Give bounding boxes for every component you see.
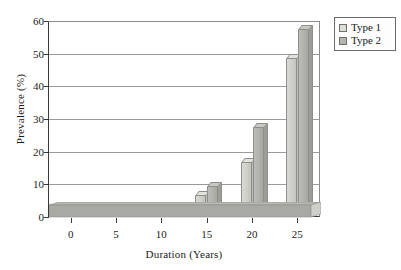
x-axis-tick-label: 15 (190, 228, 224, 240)
gridline (48, 21, 320, 22)
gridline (48, 119, 320, 120)
bar-type-2-10 (162, 211, 173, 217)
bar-front-face (286, 58, 297, 217)
y-axis-tick-label: 30 (4, 114, 44, 124)
x-axis-tick-mark (297, 218, 298, 223)
x-axis-tick-mark (207, 218, 208, 223)
y-axis-tick-label: 40 (4, 81, 44, 91)
y-axis-tick-mark (44, 217, 49, 218)
bar-type-2-5 (117, 216, 128, 217)
y-axis-tick-label: 10 (4, 179, 44, 189)
legend-label-type-1: Type 1 (351, 22, 381, 33)
legend-item-type-2[interactable]: Type 2 (339, 34, 391, 47)
bar-type-1-15 (195, 195, 206, 217)
legend-swatch-type-2-icon (339, 37, 347, 45)
legend-swatch-type-1-icon (339, 24, 347, 32)
x-axis-tick-label: 10 (144, 228, 178, 240)
x-axis-tick-mark (71, 218, 72, 223)
bar-chart: Prevalence (%) Duration (Years) 01020304… (0, 0, 401, 270)
bar-type-1-20 (241, 162, 252, 217)
gridline (48, 184, 320, 185)
bar-front-face (298, 29, 309, 217)
bar-top-face (71, 212, 86, 217)
x-axis-title: Duration (Years) (48, 248, 320, 260)
y-axis-tick-label: 0 (4, 212, 44, 222)
gridline (48, 152, 320, 153)
bar-type-2-0 (71, 216, 82, 217)
bar-type-1-10 (150, 213, 161, 217)
x-axis-tick-label: 20 (235, 228, 269, 240)
bar-front-face (241, 162, 252, 217)
y-axis-tick-label: 50 (4, 49, 44, 59)
y-axis-tick-label: 60 (4, 16, 44, 26)
x-axis-tick-label: 5 (99, 228, 133, 240)
gridline (48, 54, 320, 55)
bar-type-1-0 (59, 216, 70, 217)
bar-top-face (117, 212, 132, 217)
x-axis-tick-mark (252, 218, 253, 223)
bar-type-2-20 (253, 127, 264, 217)
x-axis-tick-mark (161, 218, 162, 223)
bar-front-face (253, 127, 264, 217)
bar-type-1-5 (105, 216, 116, 217)
bar-type-1-25 (286, 58, 297, 217)
legend-label-type-2: Type 2 (351, 35, 381, 46)
bar-type-2-25 (298, 29, 309, 217)
y-axis-tick-label: 20 (4, 147, 44, 157)
plot-area (48, 21, 320, 217)
x-axis-tick-mark (116, 218, 117, 223)
bar-front-face (207, 186, 218, 217)
legend-item-type-1[interactable]: Type 1 (339, 21, 391, 34)
legend[interactable]: Type 1 Type 2 (334, 17, 396, 51)
x-axis-tick-label: 0 (54, 228, 88, 240)
bar-type-2-15 (207, 186, 218, 217)
x-axis-tick-label: 25 (280, 228, 314, 240)
gridline (48, 86, 320, 87)
bar-front-face (195, 195, 206, 217)
